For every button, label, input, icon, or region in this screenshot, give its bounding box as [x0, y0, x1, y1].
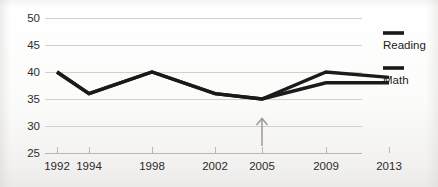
- y-tick-label-30: 30: [27, 120, 40, 132]
- legend-label-reading: Reading: [383, 39, 426, 51]
- y-tick-label-50: 50: [27, 12, 40, 24]
- x-tick-marks: [57, 147, 389, 153]
- chart-figure: 50 45 40 35 30 25 1992 1994 1998 2002 20…: [0, 0, 438, 187]
- x-tick-label-2005: 2005: [249, 160, 275, 172]
- y-tick-label-40: 40: [27, 66, 40, 78]
- x-axis-labels: 1992 1994 1998 2002 2005 2009 2013: [44, 160, 402, 172]
- y-axis-labels: 50 45 40 35 30 25: [27, 12, 40, 159]
- series-line-reading: [57, 72, 389, 99]
- chart-legend: Reading Math: [383, 33, 426, 86]
- x-tick-label-2009: 2009: [313, 160, 339, 172]
- x-tick-label-1994: 1994: [76, 160, 102, 172]
- data-series: [57, 72, 389, 99]
- gridlines: [45, 18, 362, 126]
- y-tick-label-45: 45: [27, 39, 40, 51]
- y-tick-label-35: 35: [27, 93, 40, 105]
- y-tick-label-25: 25: [27, 147, 40, 159]
- x-tick-label-2013: 2013: [376, 160, 402, 172]
- line-chart: 50 45 40 35 30 25 1992 1994 1998 2002 20…: [0, 0, 438, 187]
- x-tick-label-1998: 1998: [139, 160, 165, 172]
- x-tick-label-2002: 2002: [202, 160, 228, 172]
- annotation-arrow-2005: [257, 119, 268, 147]
- legend-label-math: Math: [383, 74, 409, 86]
- x-tick-label-1992: 1992: [44, 160, 70, 172]
